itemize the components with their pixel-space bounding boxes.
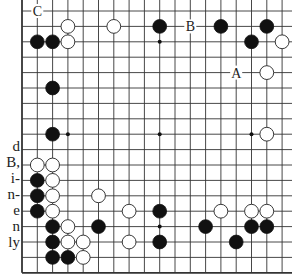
- white-stone: [245, 204, 259, 218]
- star-point: [66, 132, 70, 136]
- white-stone: [122, 235, 136, 249]
- white-stone: [92, 189, 106, 203]
- black-stone: [30, 174, 44, 188]
- star-point: [158, 225, 162, 229]
- black-stone: [245, 220, 259, 234]
- white-stone: [30, 158, 44, 172]
- white-stone: [46, 158, 60, 172]
- white-stone: [76, 251, 90, 265]
- black-stone: [46, 81, 60, 95]
- caption-fragment: i-: [0, 170, 20, 186]
- white-stone: [260, 204, 274, 218]
- white-stone: [61, 35, 75, 49]
- caption-fragment: e: [0, 202, 20, 218]
- black-stone: [199, 220, 213, 234]
- black-stone: [46, 235, 60, 249]
- white-stone: [76, 235, 90, 249]
- black-stone: [30, 35, 44, 49]
- white-stone: [107, 20, 121, 34]
- white-stone: [61, 20, 75, 34]
- caption-fragment: n-: [0, 186, 20, 202]
- black-stone: [30, 189, 44, 203]
- white-stone: [260, 66, 274, 80]
- point-label-c: C: [33, 4, 42, 19]
- black-stone: [61, 251, 75, 265]
- black-stone: [245, 35, 259, 49]
- black-stone: [229, 235, 243, 249]
- go-board-diagram: CBA: [0, 0, 292, 277]
- black-stone: [92, 220, 106, 234]
- black-stone: [260, 20, 274, 34]
- white-stone: [46, 204, 60, 218]
- white-stone: [122, 204, 136, 218]
- white-stone: [260, 127, 274, 141]
- white-stone: [275, 35, 289, 49]
- black-stone: [260, 220, 274, 234]
- white-stone: [46, 174, 60, 188]
- white-stone: [214, 204, 228, 218]
- white-stone: [61, 235, 75, 249]
- black-stone: [153, 20, 167, 34]
- black-stone: [214, 20, 228, 34]
- black-stone: [30, 204, 44, 218]
- caption-fragment: n: [0, 218, 20, 234]
- point-label-b: B: [186, 19, 195, 34]
- star-point: [158, 40, 162, 44]
- black-stone: [46, 220, 60, 234]
- black-stone: [153, 204, 167, 218]
- caption-fragment: d: [0, 138, 20, 154]
- white-stone: [46, 189, 60, 203]
- black-stone: [46, 251, 60, 265]
- black-stone: [46, 35, 60, 49]
- white-stone: [61, 220, 75, 234]
- star-point: [250, 132, 254, 136]
- point-label-a: A: [231, 66, 242, 81]
- caption-fragment: B,: [0, 154, 20, 170]
- black-stone: [46, 127, 60, 141]
- caption-fragment: ly: [0, 234, 20, 250]
- black-stone: [153, 235, 167, 249]
- star-point: [158, 132, 162, 136]
